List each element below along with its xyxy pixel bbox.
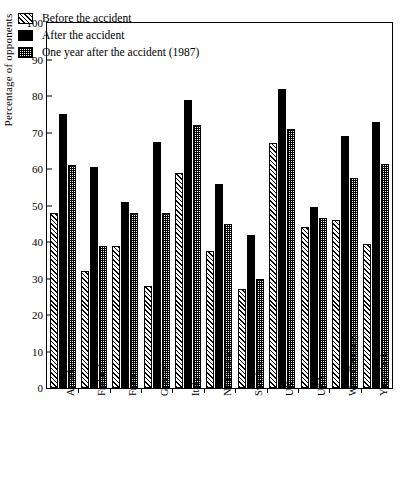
x-tick-label: Netherlands [223, 345, 234, 396]
y-tick-label: 80 [32, 91, 43, 102]
bar [287, 129, 295, 388]
bar [162, 213, 170, 388]
bar [184, 100, 192, 388]
bar-group [110, 23, 141, 388]
x-tick-label: UK [285, 381, 296, 396]
bar-group [204, 23, 235, 388]
bar [175, 173, 183, 388]
x-tick-mark [141, 388, 142, 393]
legend-swatch-icon [18, 30, 33, 41]
bar-group [172, 23, 203, 388]
legend-item: Before the accident [18, 10, 199, 27]
bar [68, 165, 76, 388]
legend-item: One year after the accident (1987) [18, 44, 199, 61]
bar-group [298, 23, 329, 388]
x-tick-mark [172, 388, 173, 393]
bar [319, 218, 327, 388]
bar-group [141, 23, 172, 388]
y-tick-label: 70 [32, 127, 43, 138]
legend-swatch-icon [18, 47, 33, 58]
x-tick-label: Greece [160, 366, 171, 396]
y-tick-label: 20 [32, 310, 43, 321]
x-tick-label: Sweden [254, 363, 265, 396]
bar [112, 246, 120, 388]
x-tick-label: France [128, 367, 139, 396]
x-tick-mark [110, 388, 111, 393]
y-tick-label: 10 [32, 346, 43, 357]
x-tick-label: USA [317, 375, 328, 396]
bar [144, 286, 152, 388]
legend-item: After the accident [18, 27, 199, 44]
bar [301, 227, 309, 388]
bar [206, 251, 214, 388]
legend: Before the accidentAfter the accidentOne… [18, 10, 199, 61]
legend-label: After the accident [42, 30, 124, 42]
y-tick-label: 60 [32, 164, 43, 175]
y-tick-label: 40 [32, 237, 43, 248]
bar-group [78, 23, 109, 388]
bar [238, 289, 246, 388]
x-tick-label: Yugoslavia [379, 349, 390, 396]
legend-swatch-icon [18, 13, 33, 24]
bar [50, 213, 58, 388]
bar [81, 271, 89, 388]
bar [310, 207, 318, 388]
x-tick-mark [235, 388, 236, 393]
x-tick-label: Finland [97, 364, 108, 396]
bar [90, 167, 98, 388]
legend-label: Before the accident [42, 13, 131, 25]
bar-group [47, 23, 78, 388]
y-tick-label: 0 [38, 383, 44, 394]
bar [269, 143, 277, 388]
x-tick-label: West Germany [348, 334, 359, 396]
bar [121, 202, 129, 388]
bar [278, 89, 286, 388]
bar-group [235, 23, 266, 388]
y-tick-label: 30 [32, 273, 43, 284]
bar-group [267, 23, 298, 388]
bar-chart: Percentage of opponents 0102030405060708… [0, 0, 414, 481]
y-axis-label: Percentage of opponents [2, 0, 14, 150]
x-tick-mark [78, 388, 79, 393]
x-tick-label: Italy [191, 377, 202, 396]
plot-area: 0102030405060708090100 [46, 22, 393, 389]
bar-group [361, 23, 392, 388]
x-tick-mark [361, 388, 362, 393]
bar [332, 220, 340, 388]
bar [153, 142, 161, 388]
bar [59, 114, 67, 388]
x-tick-mark [267, 388, 268, 393]
x-tick-mark [204, 388, 205, 393]
x-tick-mark [329, 388, 330, 393]
bar-groups [47, 23, 392, 388]
bar [130, 213, 138, 388]
y-tick-label: 50 [32, 200, 43, 211]
bar [363, 244, 371, 388]
x-tick-mark [298, 388, 299, 393]
x-tick-label: Austria [66, 365, 77, 396]
legend-label: One year after the accident (1987) [42, 47, 199, 59]
bar [193, 125, 201, 388]
